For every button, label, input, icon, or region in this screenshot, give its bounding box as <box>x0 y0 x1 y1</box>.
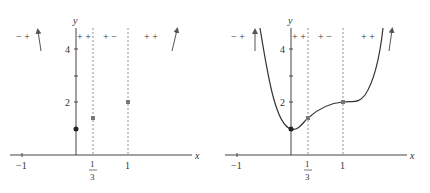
x-axis-label: x <box>409 150 415 161</box>
sign-region-1: − + <box>231 31 245 42</box>
arrow-decreasing-icon <box>38 31 41 51</box>
tick-third-den: 3 <box>90 172 95 182</box>
tick-third-num: 1 <box>90 159 95 169</box>
tick-y4: 4 <box>280 44 285 55</box>
tick-y2: 2 <box>280 97 285 108</box>
tick-neg1: −1 <box>231 160 242 171</box>
tick-neg1: −1 <box>16 160 27 171</box>
point-min <box>74 127 79 132</box>
tick-third-den: 3 <box>305 172 310 182</box>
left-plot: x y −1 1 3 1 4 2 − + + + + − + + <box>10 15 200 182</box>
sign-region-4: + + <box>144 31 158 42</box>
arrow-up-right-icon <box>389 30 392 51</box>
y-axis-label: y <box>287 15 293 26</box>
y-axis-label: y <box>72 15 78 26</box>
function-curve <box>260 28 383 129</box>
tick-one: 1 <box>340 160 345 171</box>
tick-y2: 2 <box>65 97 70 108</box>
sign-region-3: + − <box>103 31 117 42</box>
tick-third-num: 1 <box>305 159 310 169</box>
sign-region-4: + + <box>361 31 375 42</box>
point-inflection-one <box>341 100 345 104</box>
sign-region-1: − + <box>16 31 30 42</box>
point-inflection-third <box>91 116 95 120</box>
point-min <box>289 127 294 132</box>
right-plot: x y −1 1 3 1 4 2 − + + + + − + + <box>225 15 415 182</box>
point-inflection-one <box>126 100 130 104</box>
sign-region-2: + + <box>77 31 91 42</box>
tick-one: 1 <box>125 160 130 171</box>
arrow-increasing-icon <box>172 30 177 51</box>
figure: x y −1 1 3 1 4 2 − + + + + − + + x y −1 … <box>0 0 430 193</box>
x-axis-label: x <box>194 150 200 161</box>
sign-region-3: + − <box>318 31 332 42</box>
point-inflection-third <box>306 116 310 120</box>
tick-y4: 4 <box>65 44 70 55</box>
sign-region-2: + + <box>292 31 306 42</box>
